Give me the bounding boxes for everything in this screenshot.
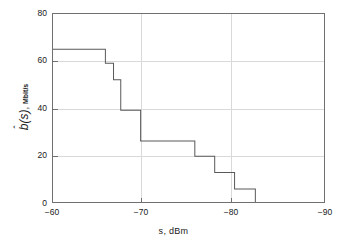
y-axis-label: ̂b(s), Mbit/s (17, 37, 31, 177)
x-tick-label--60: −60 (37, 208, 67, 217)
x-tick-label--70: −70 (126, 208, 156, 217)
plot-area (52, 13, 325, 203)
x-tick-label--80: −80 (216, 208, 246, 217)
y-axis-comma: , (19, 107, 30, 110)
x-axis-label: s, dBm (0, 226, 347, 236)
x-tick-label--90: −90 (310, 208, 340, 217)
chart-figure: 80 60 40 20 0 −60 −70 −80 −90 ̂b(s), Mbi… (0, 0, 347, 242)
y-tick-label-80: 80 (27, 9, 47, 18)
step-curve (53, 14, 324, 202)
y-axis-hat-accent: ̂ (12, 124, 22, 131)
y-tick-label-0: 0 (27, 199, 47, 208)
y-axis-unit: Mbit/s (22, 84, 29, 104)
y-axis-symbol: ̂b(s) (17, 110, 31, 131)
